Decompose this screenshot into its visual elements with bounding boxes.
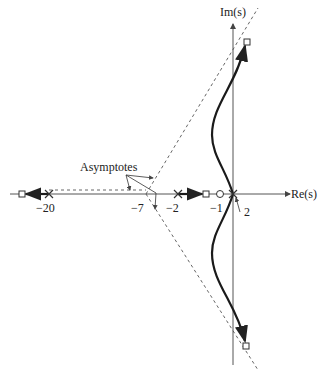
- real-axis-label: Re(s): [291, 187, 317, 201]
- tick-m1: −1: [210, 201, 223, 215]
- asymptotes: [49, 8, 258, 370]
- root-locus-diagram: Im(s) Re(s) Asymptotes −20 −7 −2 −1 2: [0, 0, 320, 376]
- tick-m2: −2: [166, 201, 179, 215]
- multiplicity-label: 2: [244, 205, 250, 219]
- tick-m20: −20: [36, 201, 55, 215]
- imag-axis-label: Im(s): [220, 5, 246, 19]
- zero-marker: [217, 191, 224, 198]
- asymptotes-label: Asymptotes: [80, 160, 138, 174]
- root-locus-plot: Im(s) Re(s) Asymptotes −20 −7 −2 −1 2: [0, 0, 320, 376]
- tick-m7: −7: [131, 201, 144, 215]
